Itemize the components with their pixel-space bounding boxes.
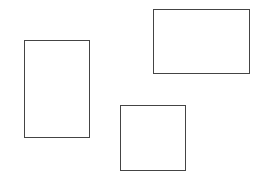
bottom-middle-rectangle — [120, 105, 186, 171]
left-rectangle — [24, 40, 90, 138]
top-right-rectangle — [153, 9, 250, 74]
diagram-canvas — [0, 0, 261, 183]
